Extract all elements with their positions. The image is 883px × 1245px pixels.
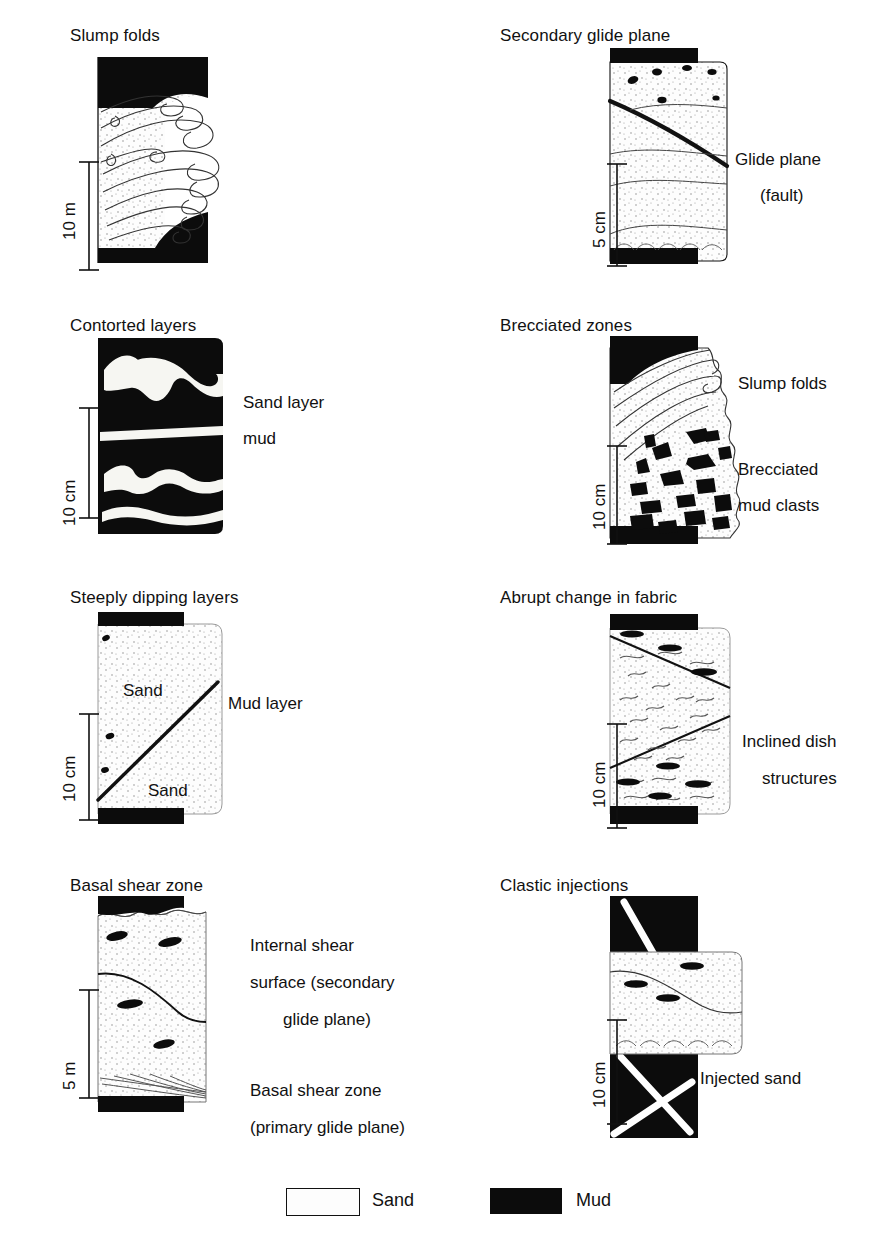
panel-title-abrupt-change-in-fabric: Abrupt change in fabric: [500, 588, 677, 608]
label-mud-layer: Mud layer: [228, 690, 303, 717]
panel-slump-folds: Slump folds 10 m: [0, 0, 440, 300]
legend-swatch-mud: [490, 1188, 562, 1214]
panel-title-basal-shear-zone: Basal shear zone: [70, 876, 203, 896]
panel-title-secondary-glide-plane: Secondary glide plane: [500, 26, 670, 46]
panel-title-clastic-injections: Clastic injections: [500, 876, 628, 896]
scale-label-clastic-injections: 10 cm: [590, 1062, 610, 1108]
panel-abrupt-change-in-fabric: Abrupt change in fabric: [440, 562, 883, 852]
panel-secondary-glide-plane: Secondary glide plane: [440, 0, 883, 300]
scale-label-steeply-dipping-layers: 10 cm: [60, 756, 80, 802]
scale-label-slump-folds: 10 m: [60, 202, 80, 240]
panel-clastic-injections: Clastic injections: [440, 852, 883, 1152]
panel-title-slump-folds: Slump folds: [70, 26, 160, 46]
legend-label-sand: Sand: [372, 1190, 414, 1211]
scale-label-secondary-glide-plane: 5 cm: [590, 211, 610, 248]
label-glide-plane-close: glide plane): [283, 1006, 371, 1033]
panel-basal-shear-zone: Basal shear zone 5: [0, 852, 440, 1152]
label-sand-lower: Sand: [148, 777, 188, 804]
label-brecciated: Brecciated: [738, 456, 818, 483]
label-primary-glide-plane: (primary glide plane): [250, 1114, 405, 1141]
scale-label-contorted-layers: 10 cm: [60, 480, 80, 526]
label-surface-secondary: surface (secondary: [250, 969, 395, 996]
label-sand-layer: Sand layer: [243, 389, 324, 416]
legend: Sand Mud: [0, 1160, 883, 1230]
scale-label-abrupt-change-in-fabric: 10 cm: [590, 762, 610, 808]
scale-label-basal-shear-zone: 5 m: [60, 1062, 80, 1090]
panel-steeply-dipping-layers: Steeply dipping layers 10 cm Sand Sand M…: [0, 562, 440, 852]
label-mud-clasts: mud clasts: [738, 492, 819, 519]
panel-title-steeply-dipping-layers: Steeply dipping layers: [70, 588, 239, 608]
panel-brecciated-zones: Brecciated zones: [440, 292, 883, 572]
panel-contorted-layers: Contorted layers 10 cm Sand layer mud: [0, 292, 440, 562]
panel-title-brecciated-zones: Brecciated zones: [500, 316, 632, 336]
label-mud: mud: [243, 425, 276, 452]
label-slump-folds-breccia: Slump folds: [738, 370, 827, 397]
label-internal-shear: Internal shear: [250, 932, 354, 959]
legend-swatch-sand: [286, 1188, 360, 1216]
label-inclined-dish: Inclined dish: [742, 728, 837, 755]
label-basal-shear-zone: Basal shear zone: [250, 1077, 381, 1104]
label-fault: (fault): [760, 182, 803, 209]
scale-label-brecciated-zones: 10 cm: [590, 484, 610, 530]
label-injected-sand: Injected sand: [700, 1065, 801, 1092]
label-sand-upper: Sand: [123, 677, 163, 704]
label-glide-plane: Glide plane: [735, 146, 821, 173]
legend-label-mud: Mud: [576, 1190, 611, 1211]
panel-title-contorted-layers: Contorted layers: [70, 316, 196, 336]
label-structures: structures: [762, 765, 837, 792]
